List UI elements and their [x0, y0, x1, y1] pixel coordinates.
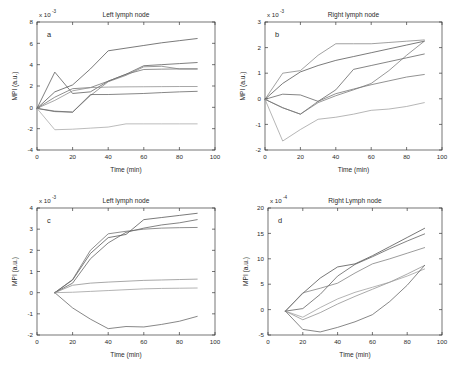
data-series-line: [37, 69, 197, 108]
x-tick-label: 0: [35, 153, 39, 160]
multi-panel-figure: 020406080100-4-202468x 10-3Left lymph no…: [0, 0, 455, 371]
y-axis-scale-exponent: x 10-3: [39, 9, 57, 18]
x-tick-label: 40: [332, 153, 339, 160]
data-series-line: [55, 293, 197, 329]
x-tick-label: 80: [403, 153, 410, 160]
y-tick-label: 6: [30, 40, 34, 47]
x-tick-label: 20: [69, 153, 76, 160]
svg-text:-3: -3: [52, 195, 57, 200]
x-tick-label: 60: [140, 338, 147, 345]
x-tick-label: 20: [297, 153, 304, 160]
y-tick-label: 3: [258, 18, 262, 25]
svg-text:-4: -4: [283, 195, 288, 200]
panel-d: 020406080100-505101520x 10-4Right Lymph …: [228, 186, 455, 371]
x-tick-label: 40: [105, 338, 112, 345]
x-tick-label: 40: [105, 153, 112, 160]
data-series-line: [265, 41, 424, 114]
data-series-line: [37, 63, 197, 109]
data-series-line: [55, 220, 197, 293]
y-tick-label: -2: [255, 146, 261, 153]
x-axis-label: Time (min): [339, 351, 370, 359]
plot-frame: [37, 208, 215, 335]
data-series-line: [37, 39, 197, 109]
panel-title: Left lymph node: [103, 11, 150, 19]
x-tick-label: 0: [263, 153, 267, 160]
panel-b: 020406080100-2-10123x 10-3Right lymph no…: [228, 0, 455, 186]
x-tick-label: 0: [35, 338, 39, 345]
svg-text:x 10: x 10: [39, 197, 51, 204]
x-tick-label: 60: [369, 338, 376, 345]
x-axis-label: Time (min): [110, 351, 141, 359]
plot-frame: [37, 22, 215, 150]
y-axis-scale-exponent: x 10-4: [270, 195, 288, 204]
svg-text:-3: -3: [280, 9, 285, 14]
panel-title: Right lymph node: [328, 11, 380, 19]
x-tick-label: 100: [210, 338, 221, 345]
panel-title: Right Lymph node: [328, 197, 382, 205]
svg-text:x 10: x 10: [267, 11, 279, 18]
y-tick-label: 5: [261, 280, 265, 287]
x-axis-label: Time (min): [338, 166, 369, 174]
x-tick-label: 100: [437, 338, 448, 345]
y-tick-label: -2: [27, 125, 33, 132]
svg-text:x 10: x 10: [270, 197, 282, 204]
data-series-line: [55, 288, 197, 293]
svg-text:-3: -3: [52, 9, 57, 14]
x-tick-label: 80: [404, 338, 411, 345]
data-series-line: [265, 99, 424, 141]
svg-text:x 10: x 10: [39, 11, 51, 18]
y-axis-label: MPI (a.u.): [242, 257, 250, 286]
y-axis-scale-exponent: x 10-3: [267, 9, 285, 18]
y-tick-label: 2: [258, 44, 262, 51]
data-series-line: [55, 213, 197, 292]
y-tick-label: 2: [30, 82, 34, 89]
x-tick-label: 80: [176, 153, 183, 160]
y-tick-label: -1: [27, 310, 33, 317]
x-tick-label: 80: [176, 338, 183, 345]
y-tick-label: -2: [27, 331, 33, 338]
y-tick-label: 1: [30, 268, 34, 275]
y-axis-label: MPI (a.u.): [239, 72, 247, 101]
y-axis-label: MPI (a.u.): [11, 257, 19, 286]
y-tick-label: -4: [27, 146, 33, 153]
x-tick-label: 0: [266, 338, 270, 345]
x-tick-label: 20: [299, 338, 306, 345]
y-tick-label: -1: [255, 121, 261, 128]
y-tick-label: 4: [30, 204, 34, 211]
y-tick-label: 0: [30, 104, 34, 111]
data-series-line: [265, 40, 424, 99]
y-tick-label: 0: [261, 306, 265, 313]
plot-frame: [268, 208, 442, 335]
plot-frame: [265, 22, 442, 150]
y-tick-label: 2: [30, 247, 34, 254]
y-tick-label: 0: [258, 95, 262, 102]
y-axis-scale-exponent: x 10-3: [39, 195, 57, 204]
panel-letter: c: [47, 216, 51, 225]
x-tick-label: 100: [437, 153, 448, 160]
panel-c: 020406080100-2-101234x 10-3Left lymph no…: [0, 186, 228, 371]
y-tick-label: 8: [30, 18, 34, 25]
data-series-line: [285, 234, 424, 311]
data-series-line: [55, 227, 197, 292]
x-tick-label: 100: [210, 153, 221, 160]
x-axis-label: Time (min): [110, 166, 141, 174]
y-tick-label: 4: [30, 61, 34, 68]
data-series-line: [265, 41, 424, 99]
x-tick-label: 60: [140, 153, 147, 160]
y-tick-label: 20: [257, 204, 264, 211]
data-series-line: [55, 279, 197, 293]
y-tick-label: 15: [257, 230, 264, 237]
data-series-line: [285, 269, 424, 317]
y-axis-label: MPI (a.u.): [11, 72, 19, 101]
data-series-line: [285, 248, 424, 312]
y-tick-label: 10: [257, 255, 264, 262]
panel-letter: d: [278, 216, 282, 225]
y-tick-label: -5: [258, 331, 264, 338]
panel-title: Left lymph node: [103, 197, 150, 205]
y-tick-label: 3: [30, 225, 34, 232]
x-tick-label: 20: [69, 338, 76, 345]
data-series-line: [285, 228, 424, 311]
y-tick-label: 0: [30, 289, 34, 296]
x-tick-label: 40: [334, 338, 341, 345]
panel-a: 020406080100-4-202468x 10-3Left lymph no…: [0, 0, 228, 186]
